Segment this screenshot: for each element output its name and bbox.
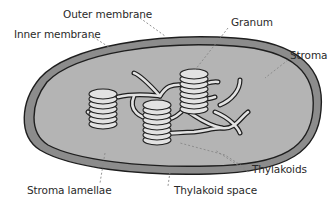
label-thylakoids: Thylakoids: [252, 163, 307, 175]
granum-stack-right: [180, 69, 208, 114]
label-outer-membrane: Outer membrane: [63, 8, 152, 20]
granum-stack-left: [89, 89, 117, 129]
granum-stack-center: [143, 100, 171, 145]
label-thylakoid-space: Thylakoid space: [174, 184, 257, 196]
label-granum: Granum: [231, 16, 273, 28]
label-inner-membrane: Inner membrane: [14, 28, 101, 40]
label-stroma: Stroma: [290, 49, 327, 61]
label-stroma-lamellae: Stroma lamellae: [27, 184, 112, 196]
